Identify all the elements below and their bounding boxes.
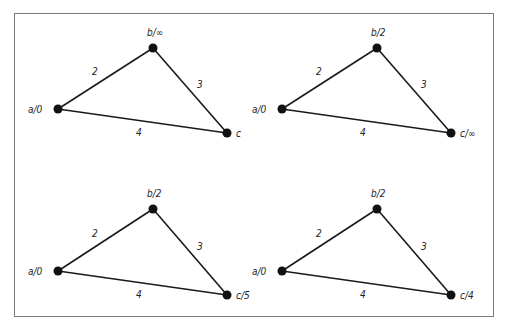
node-label-b: b/2	[371, 188, 386, 199]
edge-a-b	[282, 209, 377, 271]
edge-b-c	[153, 48, 227, 133]
node-label-a: a/0	[28, 266, 43, 277]
node-label-a: a/0	[252, 266, 267, 277]
node-label-b: b/∞	[147, 27, 163, 38]
edge-a-c	[282, 271, 451, 295]
edge-a-b	[58, 48, 153, 109]
edge-weight-a-c: 4	[360, 289, 366, 300]
node-label-c: c	[236, 128, 241, 139]
graph-canvas: 234a/0b/∞c234a/0b/2c/∞234a/0b/2c/5234a/0…	[0, 0, 507, 326]
edge-b-c	[377, 209, 451, 295]
node-label-c: c/5	[236, 290, 250, 301]
graph-panel-2: 234a/0b/2c/∞	[252, 27, 475, 139]
node-a	[278, 267, 287, 276]
edge-weight-a-b: 2	[316, 66, 322, 77]
edge-a-b	[282, 48, 377, 109]
edge-weight-a-c: 4	[136, 127, 142, 138]
edge-weight-b-c: 3	[197, 241, 203, 252]
edge-weight-a-b: 2	[92, 228, 98, 239]
edge-weight-b-c: 3	[197, 79, 203, 90]
node-b	[373, 205, 382, 214]
edge-weight-a-b: 2	[316, 228, 322, 239]
node-label-c: c/4	[460, 290, 474, 301]
edge-a-c	[282, 109, 451, 133]
node-label-b: b/2	[147, 188, 162, 199]
node-a	[54, 267, 63, 276]
edge-b-c	[153, 209, 227, 295]
edge-a-c	[58, 271, 227, 295]
graph-panel-4: 234a/0b/2c/4	[252, 188, 474, 301]
edge-a-c	[58, 109, 227, 133]
node-label-c: c/∞	[460, 128, 475, 139]
edge-weight-a-c: 4	[136, 289, 142, 300]
node-label-a: a/0	[28, 104, 43, 115]
node-c	[223, 291, 232, 300]
node-a	[54, 105, 63, 114]
edge-weight-b-c: 3	[421, 241, 427, 252]
edge-weight-a-c: 4	[360, 127, 366, 138]
graph-panel-3: 234a/0b/2c/5	[28, 188, 250, 301]
node-label-a: a/0	[252, 104, 267, 115]
node-label-b: b/2	[371, 27, 386, 38]
graph-panel-1: 234a/0b/∞c	[28, 27, 241, 139]
edge-weight-b-c: 3	[421, 79, 427, 90]
node-c	[447, 291, 456, 300]
node-c	[223, 129, 232, 138]
edge-b-c	[377, 48, 451, 133]
node-b	[373, 44, 382, 53]
edge-weight-a-b: 2	[92, 66, 98, 77]
node-b	[149, 44, 158, 53]
edge-a-b	[58, 209, 153, 271]
node-b	[149, 205, 158, 214]
node-c	[447, 129, 456, 138]
node-a	[278, 105, 287, 114]
